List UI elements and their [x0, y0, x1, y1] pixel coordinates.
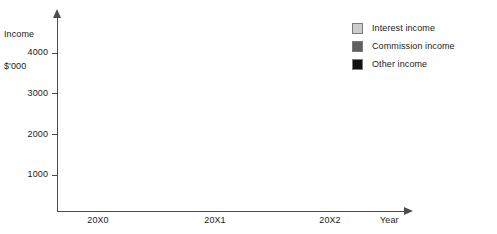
legend-swatch-icon	[352, 59, 363, 70]
x-axis-line	[57, 211, 407, 212]
y-axis-title-line-2: $'000	[4, 61, 34, 72]
legend-item-commission-income: Commission income	[352, 40, 455, 52]
x-axis-tick-label: 20X0	[68, 216, 128, 225]
x-axis-tick-label: 20X2	[300, 216, 360, 225]
legend-item-other-income: Other income	[352, 58, 455, 70]
chart-legend: Interest income Commission income Other …	[352, 22, 455, 70]
legend-item-interest-income: Interest income	[352, 22, 455, 34]
y-axis-tick-label: 3000	[4, 89, 48, 98]
legend-swatch-icon	[352, 41, 363, 52]
income-bar-chart: Income $'000 4000 3000 2000 1000 20X0 20…	[0, 0, 497, 234]
x-axis-tick-label: 20X1	[185, 216, 245, 225]
y-axis-tick-label: 4000	[4, 48, 48, 57]
legend-item-label: Interest income	[372, 23, 435, 34]
y-axis-title-line-1: Income	[4, 29, 34, 40]
legend-item-label: Commission income	[372, 41, 455, 52]
legend-swatch-icon	[352, 23, 363, 34]
legend-item-label: Other income	[372, 59, 427, 70]
x-axis-title: Year	[380, 216, 420, 225]
y-axis-tick-label: 2000	[4, 130, 48, 139]
y-axis-tick-label: 1000	[4, 170, 48, 179]
